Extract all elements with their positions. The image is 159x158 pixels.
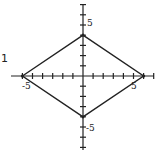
x-axis-label-neg: -5 bbox=[22, 82, 31, 91]
coordinate-plane bbox=[0, 0, 159, 158]
coordinate-diagram: 1 5 -5 -5 5 bbox=[0, 0, 159, 158]
y-axis-label-neg: -5 bbox=[86, 124, 95, 133]
x-axis-label-pos: 5 bbox=[131, 82, 137, 91]
y-axis-label-pos: 5 bbox=[87, 19, 93, 28]
margin-label: 1 bbox=[1, 53, 8, 64]
